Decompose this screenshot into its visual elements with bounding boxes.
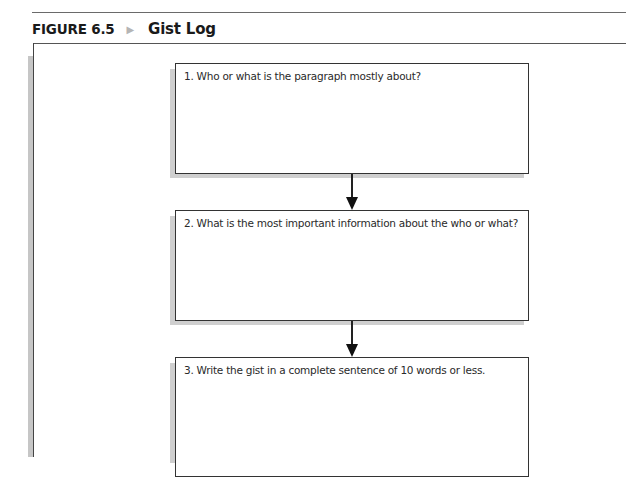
step-1-prompt: 1. Who or what is the paragraph mostly a…: [184, 70, 421, 82]
connector-2-line: [351, 321, 353, 345]
triangle-right-icon: ▶: [127, 24, 135, 35]
frame-top-border: [33, 43, 626, 44]
connector-1-line: [351, 174, 353, 198]
step-3-prompt: 3. Write the gist in a complete sentence…: [184, 364, 485, 376]
figure-label: FIGURE 6.5: [32, 21, 115, 37]
frame-left-border: [33, 43, 34, 457]
arrow-down-icon: [346, 197, 358, 210]
step-3-box[interactable]: 3. Write the gist in a complete sentence…: [175, 357, 529, 477]
arrow-down-icon: [346, 344, 358, 357]
step-2-box[interactable]: 2. What is the most important informatio…: [175, 210, 529, 321]
figure-heading: FIGURE 6.5 ▶ Gist Log: [32, 19, 216, 39]
figure-title: Gist Log: [148, 20, 216, 38]
step-2-prompt: 2. What is the most important informatio…: [184, 217, 518, 229]
step-1-box[interactable]: 1. Who or what is the paragraph mostly a…: [175, 63, 529, 174]
top-rule: [32, 12, 626, 13]
